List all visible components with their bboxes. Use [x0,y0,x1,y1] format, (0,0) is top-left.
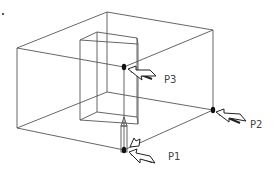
arrow-p2-icon [216,109,246,123]
arrow-p3-icon [128,66,156,80]
point-p3 [122,64,126,70]
outer-box [17,12,213,150]
inner-block [80,32,138,124]
corner-mark [2,13,4,15]
isometric-diagram: P3 P2 P1 [0,0,276,171]
point-p2 [211,107,215,113]
point-p1 [122,147,126,153]
label-p3: P3 [164,74,176,85]
label-p1: P1 [168,151,180,162]
label-p2: P2 [250,119,262,130]
